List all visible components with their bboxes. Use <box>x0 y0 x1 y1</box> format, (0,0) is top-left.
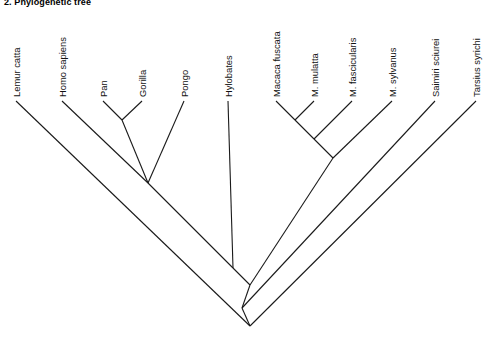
taxon-label: Gorilla <box>137 69 148 97</box>
tree-branch <box>242 308 250 326</box>
tree-branch <box>228 101 233 268</box>
tree-branch <box>333 101 392 158</box>
taxon-label: Pongo <box>179 70 190 97</box>
tree-branch <box>276 101 295 120</box>
taxon-label: Macaca fuscata <box>271 31 282 97</box>
taxon-label: M. fascicularis <box>347 37 358 97</box>
tree-branch <box>295 101 314 120</box>
tree-branch <box>233 268 250 285</box>
tree-branch <box>242 285 250 308</box>
tree-branch <box>314 139 333 158</box>
tree-branch <box>250 101 476 326</box>
phylogenetic-tree-figure: 2. Phylogenetic tree Lemur cattaHomo sap… <box>0 0 497 351</box>
tree-branch <box>148 101 184 183</box>
tree-branch <box>122 101 142 120</box>
taxon-label: Homo sapiens <box>57 37 68 97</box>
tree-branch <box>314 101 352 139</box>
tree-branch <box>122 120 148 183</box>
tree-branch <box>62 101 148 183</box>
tip-label-group: Lemur cattaHomo sapiensPanGorillaPongoHy… <box>11 31 482 97</box>
tree-branch <box>295 120 314 139</box>
taxon-label: Lemur catta <box>11 47 22 97</box>
tree-branch <box>16 101 250 326</box>
taxon-label: Tarsius syrichi <box>471 38 482 97</box>
tree-branch <box>250 158 333 285</box>
tree-branch <box>148 183 233 268</box>
taxon-label: M. sylvanus <box>387 47 398 97</box>
taxon-label: M. mulatta <box>309 52 320 97</box>
tree-branch <box>103 101 122 120</box>
taxon-label: Pan <box>98 80 109 97</box>
branch-group <box>16 101 476 326</box>
cladogram-canvas: Lemur cattaHomo sapiensPanGorillaPongoHy… <box>0 0 497 351</box>
tree-branch <box>242 101 435 308</box>
taxon-label: Hylobates <box>223 55 234 97</box>
taxon-label: Saimiri sciurei <box>430 39 441 97</box>
